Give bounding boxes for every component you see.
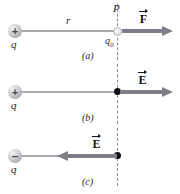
panel-c: – q E (c) bbox=[0, 128, 180, 194]
field-vector-head-b bbox=[162, 87, 173, 97]
field-vector-shaft-b bbox=[120, 90, 162, 94]
test-charge-subscript: 0 bbox=[110, 41, 114, 49]
force-vector-a bbox=[122, 29, 162, 33]
force-vector-label-a: F bbox=[139, 9, 148, 25]
charge-sign-c: – bbox=[8, 149, 22, 163]
electric-field-figure: P + q r q0 F (a) + q bbox=[0, 0, 180, 194]
test-charge-label-q0: q0 bbox=[105, 35, 114, 49]
field-vector-label-b: E bbox=[138, 70, 147, 86]
baseline-b bbox=[20, 91, 118, 93]
source-charge-label-c: q bbox=[11, 163, 17, 175]
source-charge-b: + bbox=[8, 85, 22, 99]
point-label-p: P bbox=[113, 2, 120, 14]
vector-accent-arrow-icon-b bbox=[138, 70, 147, 75]
field-symbol-b: E bbox=[138, 74, 147, 86]
panel-caption-a: (a) bbox=[82, 50, 94, 61]
force-vector-head-a bbox=[162, 26, 173, 36]
field-symbol-c: E bbox=[92, 138, 101, 150]
force-symbol-a: F bbox=[139, 13, 148, 25]
panel-caption-b: (b) bbox=[82, 112, 94, 123]
vector-accent-arrow-icon-c bbox=[92, 134, 101, 139]
charge-sign-b: + bbox=[8, 85, 22, 99]
field-vector-b bbox=[120, 90, 162, 94]
charge-sign-a: + bbox=[8, 24, 22, 38]
force-vector-shaft-a bbox=[122, 29, 162, 33]
source-charge-label-a: q bbox=[11, 38, 17, 50]
panel-b: + q E (b) bbox=[0, 64, 180, 128]
radius-line-a bbox=[20, 30, 118, 32]
source-charge-label-b: q bbox=[11, 99, 17, 111]
distance-label-r: r bbox=[66, 14, 70, 26]
test-charge-q0 bbox=[113, 27, 122, 36]
panel-a: P + q r q0 F (a) bbox=[0, 0, 180, 64]
field-vector-c bbox=[68, 154, 117, 158]
source-charge-c: – bbox=[8, 149, 22, 163]
field-vector-head-c bbox=[57, 151, 68, 161]
field-vector-shaft-c bbox=[68, 154, 117, 158]
vector-accent-arrow-icon-a bbox=[139, 9, 148, 14]
source-charge-a: + bbox=[8, 24, 22, 38]
panel-caption-c: (c) bbox=[82, 176, 93, 187]
field-vector-label-c: E bbox=[92, 134, 101, 150]
